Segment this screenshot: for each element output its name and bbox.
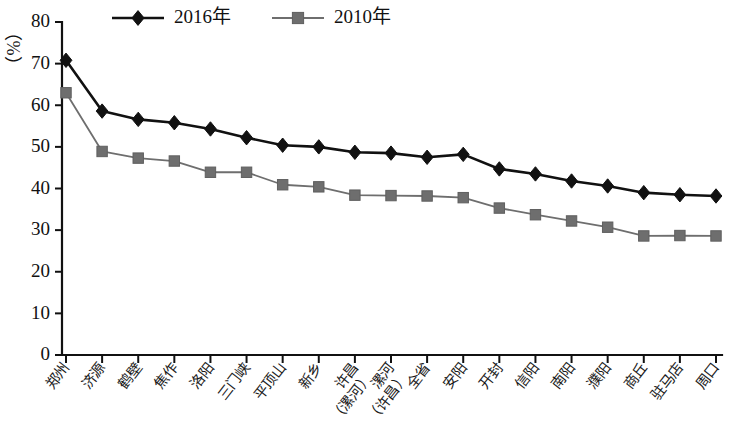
- data-point-2016年: [638, 185, 650, 199]
- data-point-2016年: [674, 188, 686, 202]
- data-point-2016年: [602, 179, 614, 193]
- chart-figure: 2016年2010年 01020304050607080 （%） 郑州济源鹤壁焦…: [0, 0, 730, 439]
- data-point-2016年: [168, 116, 180, 130]
- series-line-2016年: [66, 60, 716, 196]
- y-axis-tick-label: 10: [31, 302, 50, 323]
- data-point-2010年: [133, 153, 143, 163]
- x-axis-tick-label: 驻马店: [648, 360, 686, 403]
- y-axis-unit-label: （%）: [4, 23, 24, 74]
- x-axis-tick-label-line: 三门峡: [214, 359, 253, 403]
- data-point-2010年: [314, 182, 324, 192]
- chart-legend: 2016年2010年: [112, 6, 391, 27]
- data-point-2010年: [711, 231, 721, 241]
- data-point-2016年: [566, 174, 578, 188]
- y-axis-tick-labels: 01020304050607080: [31, 10, 50, 364]
- data-point-2016年: [493, 162, 505, 176]
- x-axis-tick-labels: 郑州济源鹤壁焦作洛阳三门峡平顶山新乡许昌（漯河）漯河（许昌）全省安阳开封信阳南阳…: [43, 359, 723, 424]
- data-point-2016年: [349, 145, 361, 159]
- legend-marker-diamond-icon: [132, 11, 144, 26]
- legend-item-2016年: 2016年: [112, 6, 231, 27]
- x-axis-tick-label-line: 焦作: [151, 360, 181, 392]
- data-point-2010年: [530, 210, 540, 220]
- x-axis-tick-label: 安阳: [440, 360, 470, 392]
- x-axis-tick-label-line: 驻马店: [648, 360, 686, 403]
- x-axis-tick-label: 开封: [476, 360, 506, 392]
- data-point-2010年: [350, 190, 360, 200]
- legend-item-2010年: 2010年: [272, 6, 391, 27]
- x-axis-tick-label: 周口: [693, 360, 723, 392]
- x-axis-tick-label: 平顶山: [251, 360, 289, 403]
- data-point-2016年: [530, 167, 542, 181]
- x-axis-tick-label-line: 平顶山: [251, 360, 289, 403]
- data-point-2010年: [241, 167, 251, 177]
- x-axis-tick-label: 信阳: [512, 360, 542, 392]
- y-axis-unit-label-text: （%）: [4, 23, 24, 74]
- legend-label: 2016年: [174, 6, 231, 27]
- data-point-2010年: [386, 190, 396, 200]
- data-point-2016年: [241, 131, 253, 145]
- data-point-2016年: [421, 150, 433, 164]
- x-axis-tick-label-line: 周口: [693, 360, 723, 392]
- y-axis-tick-label: 70: [31, 52, 50, 73]
- data-point-2010年: [494, 203, 504, 213]
- legend-marker-square-icon: [292, 12, 303, 23]
- data-point-2010年: [205, 167, 215, 177]
- x-axis-tick-label: 新乡: [295, 360, 325, 392]
- data-point-2010年: [675, 230, 685, 240]
- x-axis-tick-label: 鹤壁: [115, 360, 145, 392]
- data-point-2016年: [277, 138, 289, 152]
- x-axis-tick-label-line: 全省: [403, 359, 434, 392]
- legend-label: 2010年: [334, 6, 391, 27]
- x-axis-tick-label: 洛阳: [187, 360, 217, 392]
- data-point-2010年: [458, 192, 468, 202]
- data-point-2016年: [205, 122, 217, 136]
- y-axis-tick-label: 60: [31, 94, 50, 115]
- x-axis-tick-label: 南阳: [548, 360, 578, 392]
- data-point-2010年: [169, 156, 179, 166]
- y-axis-tick-label: 40: [31, 177, 50, 198]
- line-chart: 2016年2010年 01020304050607080 （%） 郑州济源鹤壁焦…: [0, 0, 730, 439]
- x-axis-tick-label-line: 濮阳: [584, 360, 614, 392]
- x-axis-tick-label: 郑州: [43, 360, 73, 392]
- y-axis-tick-label: 20: [31, 260, 50, 281]
- x-axis-tick-label-line: 济源: [79, 359, 109, 392]
- y-axis-tick-label: 0: [41, 343, 51, 364]
- chart-series: [60, 53, 722, 241]
- x-axis-tick-label-line: 南阳: [548, 360, 578, 392]
- data-point-2010年: [97, 146, 107, 156]
- x-axis-tick-label-line: 商丘: [620, 360, 650, 392]
- x-axis-tick-label-line: 洛阳: [187, 360, 217, 392]
- x-axis-tick-label-line: 开封: [476, 360, 506, 392]
- x-axis-tick-label-line: 安阳: [440, 360, 470, 392]
- x-axis-tick-label: 焦作: [151, 360, 181, 392]
- x-axis-tick-label: 商丘: [620, 360, 650, 392]
- x-axis-tick-label: 三门峡: [214, 359, 253, 403]
- x-axis-tick-label-line: 新乡: [295, 360, 325, 392]
- data-point-2016年: [457, 147, 469, 161]
- x-axis-tick-label: 全省: [403, 359, 434, 392]
- data-point-2016年: [385, 146, 397, 160]
- data-point-2010年: [602, 222, 612, 232]
- y-axis-tick-label: 30: [31, 218, 50, 239]
- data-point-2010年: [639, 231, 649, 241]
- x-axis-tick-label: 济源: [79, 359, 109, 392]
- x-axis-tick-label: 濮阳: [584, 360, 614, 392]
- x-axis-tick-label-line: 鹤壁: [115, 360, 145, 392]
- data-point-2016年: [710, 189, 722, 203]
- series-line-2010年: [66, 93, 716, 236]
- x-axis-tick-label-line: 信阳: [512, 360, 542, 392]
- data-point-2010年: [61, 88, 71, 98]
- data-point-2010年: [566, 216, 576, 226]
- data-point-2010年: [422, 191, 432, 201]
- x-axis-tick-label-line: 郑州: [43, 360, 73, 392]
- y-axis-tick-label: 80: [31, 10, 50, 31]
- y-axis-tick-label: 50: [31, 135, 50, 156]
- data-point-2016年: [313, 140, 325, 154]
- data-point-2016年: [132, 112, 144, 126]
- data-point-2010年: [277, 180, 287, 190]
